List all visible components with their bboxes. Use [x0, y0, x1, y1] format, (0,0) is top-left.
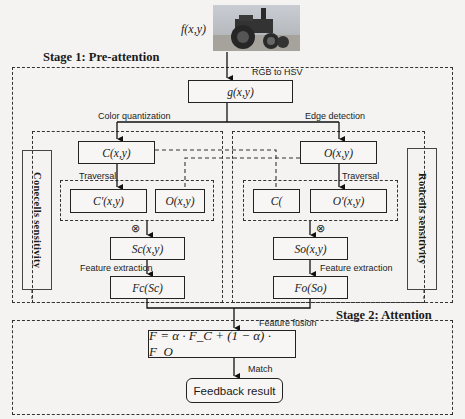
- so-box: So(x,y): [273, 237, 348, 260]
- feature-fusion-label: Feature fusion: [259, 318, 317, 328]
- o-box: O(x,y): [300, 141, 377, 164]
- fusion-formula: F = α · F_C + (1 − α) · F_O: [149, 328, 295, 360]
- match-label: Match: [248, 364, 273, 374]
- left-multiply-icon: ⊗: [131, 222, 140, 235]
- right-c-box: C(: [253, 189, 300, 213]
- left-o-box: O(x,y): [155, 189, 205, 213]
- rod-cells-label: Rodcells sensitivity: [417, 173, 428, 264]
- c-box: C(x,y): [78, 141, 155, 164]
- right-feature-extraction-label: Feature extraction: [320, 263, 393, 273]
- left-feature-extraction-label: Feature extraction: [80, 263, 153, 273]
- fusion-formula-box: F = α · F_C + (1 − α) · F_O: [148, 330, 296, 358]
- o-prime-box: O'(x,y): [310, 189, 387, 213]
- color-quantization-label: Color quantization: [98, 111, 171, 121]
- rgb-to-hsv-label: RGB to HSV: [252, 67, 303, 77]
- left-traversal-label: Traversal: [79, 171, 116, 181]
- right-traversal-label: Traversal: [342, 171, 379, 181]
- edge-detection-label: Edge detection: [305, 111, 365, 121]
- g-box: g(x,y): [188, 80, 293, 103]
- sc-box: Sc(x,y): [110, 237, 185, 260]
- feedback-result-box: Feedback result: [186, 378, 283, 403]
- c-prime-box: C'(x,y): [70, 189, 147, 213]
- rod-cells-sidebar: Rodcells sensitivity: [407, 148, 437, 290]
- fc-box: Fc(Sc): [110, 276, 185, 299]
- right-multiply-icon: ⊗: [316, 222, 325, 235]
- cone-cells-label: Conecells sensitivity: [32, 172, 43, 268]
- fo-box: Fo(So): [273, 276, 348, 299]
- cone-cells-sidebar: Conecells sensitivity: [22, 150, 52, 290]
